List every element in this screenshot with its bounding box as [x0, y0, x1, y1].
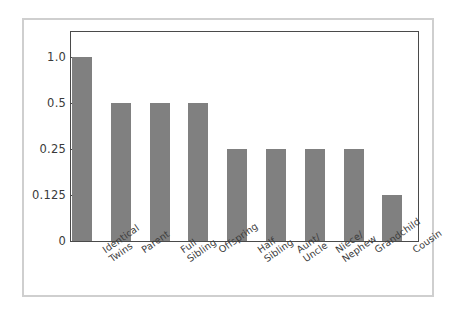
x-axis-tick-label: Cousin [411, 247, 417, 256]
x-axis-tick-label: Parent [140, 247, 146, 256]
bar-chart-figure: 1.00.50.250.1250 IdenticalTwinsParentFul… [0, 0, 453, 312]
x-axis-tick-label: HalfSibling [256, 247, 268, 264]
x-axis-tick-label: Aunt/Uncle [295, 247, 307, 264]
x-axis-tick-label: IdenticalTwins [101, 247, 113, 264]
x-axis-tick-label: Niece/Nephew [334, 247, 346, 264]
x-axis-tick-label: Grandchild [373, 247, 379, 256]
x-axis: IdenticalTwinsParentFullSiblingOffspring… [0, 0, 453, 312]
x-axis-tick-label: FullSibling [179, 247, 191, 264]
x-axis-tick-label: Offspring [217, 247, 223, 256]
